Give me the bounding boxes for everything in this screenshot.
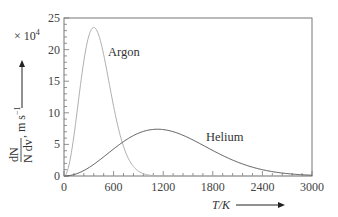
y-axis-title: × 104 dN N dv , m s−1 [7, 28, 40, 163]
y-axis-multiplier: × 104 [14, 28, 40, 43]
plot-frame [64, 18, 312, 176]
maxwell-distribution-chart: 06001200180024003000 0510152025 Argon He… [0, 0, 338, 217]
x-tick-label: 1800 [201, 180, 225, 194]
x-tick-label: 0 [61, 180, 67, 194]
x-axis-tick-labels: 06001200180024003000 [61, 180, 324, 194]
helium-curve [64, 129, 312, 176]
y-label-denominator: N dv [21, 139, 35, 163]
plot-border [64, 18, 312, 176]
y-tick-label: 5 [54, 137, 60, 151]
x-axis-label: T/K [212, 198, 231, 212]
y-axis-tick-labels: 0510152025 [48, 11, 60, 183]
helium-label: Helium [206, 130, 244, 144]
x-tick-label: 600 [105, 180, 123, 194]
x-tick-label: 1200 [151, 180, 175, 194]
y-label-numerator: dN [7, 147, 21, 162]
y-tick-label: 20 [48, 43, 60, 57]
y-tick-label: 25 [48, 11, 60, 25]
y-axis-label: dN N dv , m s−1 [7, 106, 35, 163]
x-tick-label: 3000 [300, 180, 324, 194]
argon-label: Argon [108, 45, 140, 59]
y-tick-label: 0 [54, 169, 60, 183]
y-tick-label: 15 [48, 74, 60, 88]
y-axis-ticks [64, 18, 69, 176]
y-tick-label: 10 [48, 106, 60, 120]
x-tick-label: 2400 [250, 180, 274, 194]
argon-curve [64, 27, 312, 176]
y-axis-arrowhead-icon [19, 60, 25, 67]
x-axis-title: T/K [212, 198, 285, 212]
y-label-unit: , m s−1 [13, 106, 28, 138]
x-axis-arrowhead-icon [278, 202, 285, 208]
